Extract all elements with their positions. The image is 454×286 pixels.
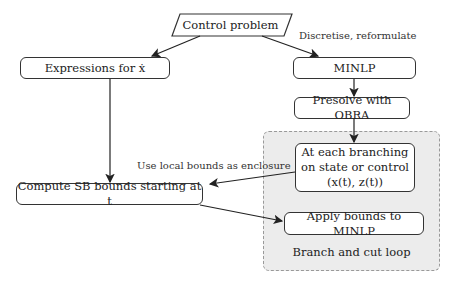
control-problem-node: Control problem bbox=[173, 14, 288, 36]
minlp-node: MINLP bbox=[293, 57, 416, 79]
apply-bounds-node: Apply bounds to MINLP bbox=[284, 212, 424, 235]
branching-node: At each branching on state or control (x… bbox=[295, 143, 415, 192]
presolve-node: Presolve with OBRA bbox=[294, 97, 410, 119]
use-local-bounds-label: Use local bounds as enclosure bbox=[137, 160, 291, 171]
discretise-label: Discretise, reformulate bbox=[299, 30, 417, 41]
compute-sb-node: Compute SB bounds starting at t bbox=[16, 183, 203, 205]
expressions-node: Expressions for ẋ bbox=[20, 57, 170, 79]
